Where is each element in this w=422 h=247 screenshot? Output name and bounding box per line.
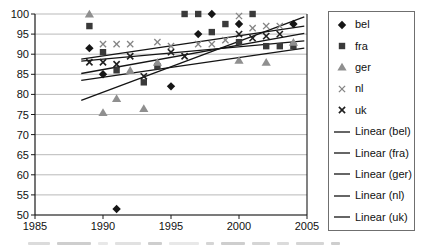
x-light-marker-icon [333, 83, 351, 95]
legend-item-bel: bel [333, 15, 414, 35]
y-axis-tick-label: 75 [17, 109, 29, 121]
y-axis-tick-label: 60 [17, 169, 29, 181]
y-axis-tick-label: 55 [17, 189, 29, 201]
legend-item-uk: uk [333, 100, 414, 120]
legend-label: Linear (fra) [355, 148, 409, 159]
legend-item-inearfra: Linear (fra) [333, 143, 414, 163]
x-axis-tick-label: 1990 [91, 220, 115, 232]
x-axis-tick-label: 2000 [227, 220, 251, 232]
legend-item-inearuk: Linear (uk) [333, 207, 414, 227]
y-axis-tick-label: 90 [17, 48, 29, 60]
x-dark-marker-icon [333, 104, 351, 116]
legend-item-inearbel: Linear (bel) [333, 122, 414, 142]
legend-item-inearnl: Linear (nl) [333, 186, 414, 206]
series-nl [100, 13, 283, 49]
trend-line-sample-icon [333, 168, 351, 180]
x-axis-tick-label: 1985 [23, 220, 47, 232]
y-axis-tick-label: 80 [17, 88, 29, 100]
legend-label: Linear (nl) [355, 190, 405, 201]
square-marker-icon [333, 40, 351, 52]
triangle-marker-icon [333, 61, 351, 73]
trend-line-sample-icon [333, 190, 351, 202]
legend-item-inearger: Linear (ger) [333, 164, 414, 184]
trend-line-sample-icon [333, 126, 351, 138]
x-axis-tick-label: 1995 [159, 220, 183, 232]
diamond-marker-icon [333, 19, 351, 31]
y-axis-tick-label: 95 [17, 28, 29, 40]
y-axis-tick-label: 100 [11, 8, 29, 20]
legend-label: nl [355, 83, 364, 94]
chart-legend: belfragernlukLinear (bel)Linear (fra)Lin… [328, 11, 415, 231]
legend-label: Linear (uk) [355, 212, 408, 223]
trend-line-sample-icon [333, 147, 351, 159]
legend-label: Linear (ger) [355, 169, 412, 180]
figure-container: 5055606570758085909510019851990199520002… [0, 0, 422, 247]
y-axis-tick-label: 65 [17, 149, 29, 161]
y-axis-tick-label: 70 [17, 129, 29, 141]
trend-line-sample-icon [333, 211, 351, 223]
legend-item-ger: ger [333, 57, 414, 77]
x-axis-tick-label: 2005 [295, 220, 319, 232]
legend-label: uk [355, 105, 367, 116]
y-axis-tick-label: 85 [17, 68, 29, 80]
legend-item-fra: fra [333, 36, 414, 56]
cropped-caption-text [28, 242, 373, 246]
legend-item-nl: nl [333, 79, 414, 99]
legend-label: bel [355, 19, 370, 30]
legend-label: fra [355, 41, 368, 52]
legend-label: ger [355, 62, 371, 73]
legend-label: Linear (bel) [355, 126, 411, 137]
